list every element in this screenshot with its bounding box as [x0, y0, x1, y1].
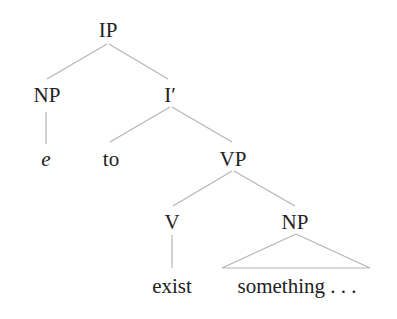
- leaf-empty: e: [41, 149, 50, 170]
- edge-vp-v: [173, 171, 232, 206]
- np-triangle: [222, 234, 370, 268]
- node-i-bar: I′: [164, 85, 176, 106]
- edge-ip-ibar: [109, 44, 168, 79]
- edge-vp-np: [234, 171, 295, 206]
- edge-ibar-vp: [172, 107, 232, 142]
- tree-edges: [0, 0, 397, 319]
- node-v: V: [164, 212, 179, 233]
- node-np-subject: NP: [34, 85, 61, 106]
- node-np-object: NP: [282, 212, 309, 233]
- node-vp: VP: [220, 149, 247, 170]
- leaf-something: something . . .: [238, 276, 357, 297]
- edge-ip-np: [47, 44, 107, 79]
- leaf-to: to: [103, 149, 119, 170]
- leaf-exist: exist: [152, 276, 192, 297]
- edge-ibar-to: [110, 107, 170, 142]
- node-ip: IP: [99, 20, 118, 41]
